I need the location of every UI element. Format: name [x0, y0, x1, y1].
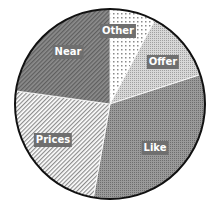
slice-label-other: Other	[100, 24, 136, 38]
slice-label-offer: Offer	[147, 55, 179, 69]
slice-label-near: Near	[53, 45, 84, 59]
slice-label-prices: Prices	[34, 133, 72, 147]
slice-label-like: Like	[142, 141, 169, 155]
